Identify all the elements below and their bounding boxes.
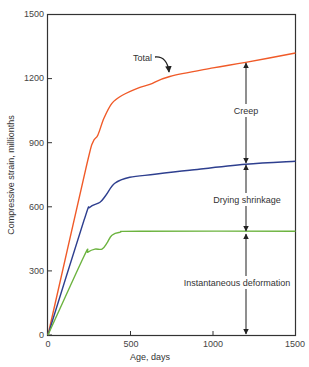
label-instantaneous-deformation: Instantaneous deformation	[184, 278, 291, 288]
y-tick-1500: 1500	[24, 9, 44, 19]
x-tick-0: 0	[45, 339, 50, 349]
y-tick-1200: 1200	[24, 73, 44, 83]
x-tick-labels: 0 500 1000 1500	[45, 339, 305, 349]
chart: 0 300 600 900 1200 1500 0 500 1000 1500 …	[0, 0, 309, 367]
total-curved-arrow-icon	[155, 57, 169, 72]
x-tick-1500: 1500	[285, 339, 305, 349]
y-tick-300: 300	[29, 266, 44, 276]
label-creep: Creep	[234, 106, 259, 116]
y-tick-900: 900	[29, 138, 44, 148]
x-tick-500: 500	[123, 339, 138, 349]
y-tick-600: 600	[29, 202, 44, 212]
x-axis-title: Age, days	[130, 352, 171, 362]
y-tick-0: 0	[39, 330, 44, 340]
y-tick-labels: 0 300 600 900 1200 1500	[24, 9, 44, 340]
y-axis-title: Compressive strain, millionths	[6, 115, 16, 235]
label-drying-shrinkage: Drying shrinkage	[213, 195, 281, 205]
label-total: Total	[133, 53, 152, 63]
series-line-1	[48, 161, 296, 335]
x-tick-1000: 1000	[203, 339, 223, 349]
